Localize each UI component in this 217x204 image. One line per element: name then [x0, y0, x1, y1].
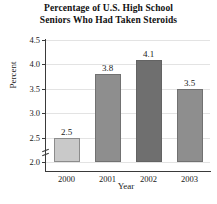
gridline [46, 162, 210, 163]
bar-value-label: 3.5 [184, 78, 195, 88]
y-tick-label: 2.0 [29, 157, 40, 167]
bar: 3.5 [177, 89, 203, 162]
x-tick-label: 2002 [140, 174, 157, 184]
x-tick-label: 2001 [99, 174, 116, 184]
bar-value-label: 2.5 [61, 127, 72, 137]
y-tick-mark [42, 89, 46, 90]
y-tick-label: 3.5 [29, 84, 40, 94]
y-tick-label: 2.5 [29, 133, 40, 143]
chart-title-line-2: Seniors Who Had Taken Steroids [0, 15, 217, 27]
bar-value-label: 3.8 [102, 63, 113, 73]
x-tick-label: 2003 [181, 174, 198, 184]
x-axis-line [45, 171, 211, 172]
chart-title-line-1: Percentage of U.S. High School [0, 3, 217, 15]
bar: 2.5 [54, 138, 80, 162]
y-tick-label: 3.0 [29, 108, 40, 118]
y-tick-mark [42, 113, 46, 114]
bar: 4.1 [136, 60, 162, 162]
x-tick-label: 2000 [58, 174, 75, 184]
y-axis-label: Percent [8, 40, 18, 110]
bar-value-label: 4.1 [143, 49, 154, 59]
bar: 3.8 [95, 74, 121, 162]
y-tick-mark [42, 40, 46, 41]
plot-area: 2.02.53.03.54.04.5 2.53.84.13.5 [46, 40, 210, 162]
y-tick-label: 4.5 [29, 35, 40, 45]
chart-title: Percentage of U.S. High School Seniors W… [0, 3, 217, 26]
y-tick-mark [42, 138, 46, 139]
gridline [46, 40, 210, 41]
y-tick-mark [42, 64, 46, 65]
gridline [46, 64, 210, 65]
y-tick-mark [42, 162, 46, 163]
y-tick-label: 4.0 [29, 59, 40, 69]
bar-chart: Percentage of U.S. High School Seniors W… [0, 0, 217, 204]
